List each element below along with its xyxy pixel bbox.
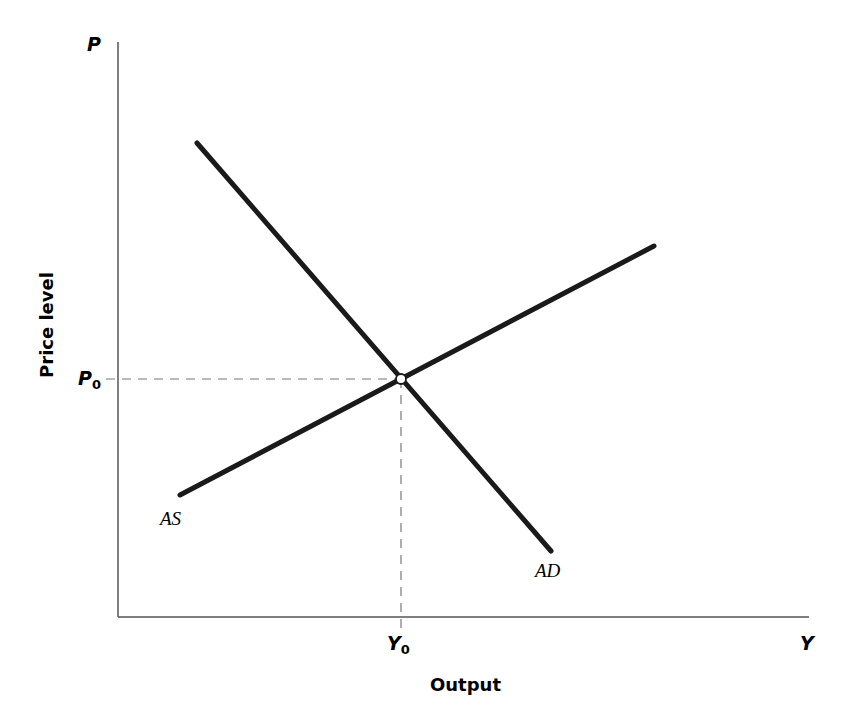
- as-curve: [180, 246, 654, 495]
- p0-subscript: 0: [92, 377, 101, 392]
- y0-subscript: 0: [401, 642, 410, 657]
- y0-main: Y: [387, 632, 401, 654]
- x-axis-variable-label: Y: [800, 634, 814, 653]
- y-axis-variable-label: P: [87, 35, 101, 54]
- equilibrium-point: [396, 374, 406, 384]
- x-axis-title: Output: [430, 676, 501, 694]
- y0-tick-label: Y0: [387, 634, 410, 656]
- as-ad-chart: P Y P0 Y0 Price level Output AS AD: [0, 0, 849, 726]
- y-axis-title: Price level: [38, 272, 56, 378]
- ad-curve-label: AD: [535, 561, 560, 580]
- p0-tick-label: P0: [78, 369, 101, 391]
- p0-main: P: [78, 367, 92, 389]
- as-curve-label: AS: [160, 509, 181, 528]
- chart-canvas: [0, 0, 849, 726]
- ad-curve: [197, 143, 551, 551]
